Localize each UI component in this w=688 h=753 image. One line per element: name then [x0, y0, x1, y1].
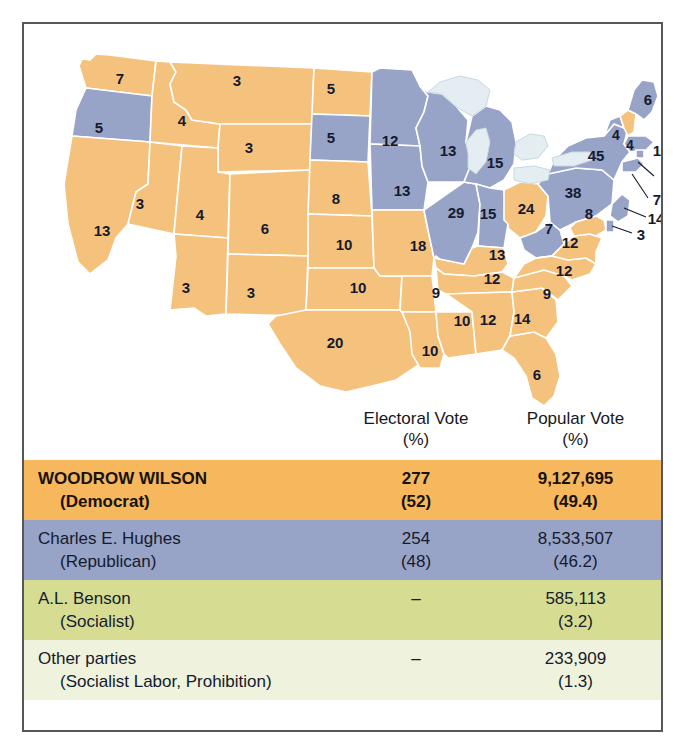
map-svg: .w{fill:#f5c27d;stroke:#ffffff;stroke-wi…	[24, 24, 661, 424]
candidate-party: (Republican)	[38, 550, 342, 573]
table-row: A.L. Benson (Socialist) – 585,113 (3.2)	[24, 580, 661, 640]
lake-huron	[514, 134, 548, 160]
row-popular-vote: 233,909 (1.3)	[490, 640, 661, 700]
popular-pct: (3.2)	[490, 610, 661, 633]
header-popular-vote: Popular Vote (%)	[490, 400, 661, 450]
svg-text:15: 15	[487, 154, 504, 171]
svg-text:4: 4	[612, 127, 620, 143]
state-TX	[268, 310, 422, 392]
header-electoral-vote: Electoral Vote (%)	[342, 400, 490, 450]
svg-text:13: 13	[489, 246, 506, 263]
svg-text:12: 12	[484, 270, 501, 287]
svg-text:8: 8	[332, 190, 340, 207]
svg-text:10: 10	[454, 312, 471, 329]
candidate-party: (Socialist)	[38, 610, 342, 633]
table-header-row: Electoral Vote (%) Popular Vote (%)	[24, 400, 661, 460]
header-popular-pct: (%)	[490, 429, 661, 450]
state-ND	[312, 68, 372, 116]
svg-text:3: 3	[637, 226, 645, 243]
svg-text:3: 3	[247, 284, 255, 301]
svg-text:4: 4	[626, 137, 634, 153]
svg-text:9: 9	[543, 285, 551, 302]
candidate-name: WOODROW WILSON	[38, 469, 207, 488]
row-candidate-name: A.L. Benson (Socialist)	[24, 580, 342, 640]
svg-text:3: 3	[182, 279, 190, 296]
svg-text:20: 20	[327, 334, 344, 351]
svg-text:10: 10	[422, 342, 439, 359]
state-RI	[636, 150, 644, 158]
svg-text:15: 15	[480, 205, 497, 222]
popular-value: 8,533,507	[538, 529, 614, 548]
table-row: Other parties (Socialist Labor, Prohibit…	[24, 640, 661, 700]
svg-text:6: 6	[533, 366, 541, 383]
election-figure: .w{fill:#f5c27d;stroke:#ffffff;stroke-wi…	[0, 0, 688, 753]
state-SD	[310, 114, 370, 162]
svg-text:3: 3	[233, 72, 241, 89]
results-table: Electoral Vote (%) Popular Vote (%) WOOD…	[24, 400, 661, 730]
svg-text:13: 13	[94, 222, 111, 239]
svg-text:24: 24	[518, 200, 535, 217]
svg-text:29: 29	[448, 204, 465, 221]
svg-text:10: 10	[350, 279, 367, 296]
svg-text:12: 12	[480, 311, 497, 328]
electoral-pct: (52)	[342, 490, 490, 513]
popular-pct: (46.2)	[490, 550, 661, 573]
svg-text:38: 38	[565, 184, 582, 201]
row-electoral-vote: –	[342, 580, 490, 640]
svg-text:3: 3	[136, 195, 144, 212]
svg-text:6: 6	[644, 91, 652, 108]
state-NM	[226, 254, 308, 316]
electoral-pct: (48)	[342, 550, 490, 573]
state-WY	[218, 124, 312, 172]
svg-text:7: 7	[653, 191, 661, 208]
state-NE	[308, 160, 372, 216]
electoral-value: 254	[402, 529, 430, 548]
state-MT	[170, 62, 314, 124]
svg-text:3: 3	[245, 139, 253, 156]
candidate-party: (Socialist Labor, Prohibition)	[38, 670, 342, 693]
svg-text:6: 6	[261, 220, 269, 237]
svg-text:4: 4	[196, 206, 205, 223]
state-IA	[370, 144, 428, 210]
state-CO	[228, 170, 310, 256]
us-electoral-map: .w{fill:#f5c27d;stroke:#ffffff;stroke-wi…	[24, 24, 661, 424]
state-FL	[502, 332, 560, 406]
row-candidate-name: Charles E. Hughes (Republican)	[24, 520, 342, 580]
electoral-value: –	[411, 649, 420, 668]
state-OR	[72, 88, 152, 142]
popular-pct: (1.3)	[490, 670, 661, 693]
svg-text:9: 9	[432, 284, 440, 301]
state-AZ	[170, 234, 228, 316]
svg-text:13: 13	[440, 142, 457, 159]
header-electoral-label: Electoral Vote	[364, 409, 469, 428]
svg-text:18: 18	[410, 237, 427, 254]
candidate-name: Charles E. Hughes	[38, 529, 181, 548]
row-popular-vote: 9,127,695 (49.4)	[490, 460, 661, 520]
table-row: Charles E. Hughes (Republican) 254 (48) …	[24, 520, 661, 580]
electoral-value: –	[411, 589, 420, 608]
svg-text:7: 7	[116, 70, 124, 87]
row-popular-vote: 585,113 (3.2)	[490, 580, 661, 640]
svg-text:12: 12	[556, 262, 573, 279]
popular-value: 585,113	[545, 589, 605, 608]
state-AR	[400, 276, 436, 312]
row-electoral-vote: 277 (52)	[342, 460, 490, 520]
header-popular-label: Popular Vote	[527, 409, 624, 428]
popular-value: 9,127,695	[538, 469, 614, 488]
svg-text:12: 12	[382, 132, 399, 149]
table-row: WOODROW WILSON (Democrat) 277 (52) 9,127…	[24, 460, 661, 520]
svg-text:12: 12	[562, 234, 579, 251]
row-electoral-vote: –	[342, 640, 490, 700]
svg-text:13: 13	[394, 182, 411, 199]
figure-frame: .w{fill:#f5c27d;stroke:#ffffff;stroke-wi…	[22, 22, 663, 732]
row-electoral-vote: 254 (48)	[342, 520, 490, 580]
header-electoral-pct: (%)	[342, 429, 490, 450]
popular-pct: (49.4)	[490, 490, 661, 513]
candidate-name: A.L. Benson	[38, 589, 131, 608]
svg-text:14: 14	[514, 310, 531, 327]
svg-text:10: 10	[336, 236, 353, 253]
row-candidate-name: Other parties (Socialist Labor, Prohibit…	[24, 640, 342, 700]
svg-text:5: 5	[327, 80, 335, 97]
svg-text:5: 5	[327, 129, 335, 146]
candidate-name: Other parties	[38, 649, 136, 668]
